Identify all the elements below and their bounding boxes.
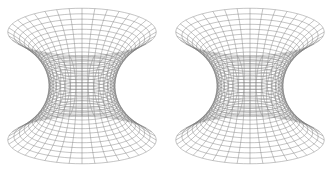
left-catenoid-wireframe bbox=[8, 8, 156, 164]
right-catenoid-wireframe bbox=[176, 8, 324, 164]
stereo-catenoid-image bbox=[0, 0, 325, 172]
